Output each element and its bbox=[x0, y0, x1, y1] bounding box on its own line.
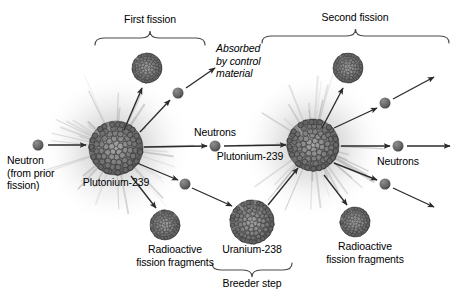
bracket-second-fission bbox=[262, 29, 449, 43]
neutron-absorbed bbox=[173, 88, 184, 99]
neutron-to-uranium bbox=[180, 179, 191, 190]
bracket-label-breeder-step: Breeder step bbox=[223, 277, 282, 290]
label-neutrons-right: Neutrons bbox=[377, 155, 419, 168]
neutron-incoming bbox=[33, 140, 44, 151]
neutron-escaping-middle bbox=[393, 141, 404, 152]
neutron-escaping-lower bbox=[380, 179, 391, 190]
fission-chain-diagram: First fission Second fission Breeder ste… bbox=[0, 0, 460, 303]
label-incoming-neutron: Neutron (from prior fission) bbox=[7, 154, 54, 192]
bracket-first-fission bbox=[95, 31, 205, 45]
bracket-label-first-fission: First fission bbox=[124, 13, 176, 26]
label-radioactive-fission-fragments-right: Radioactive fission fragments bbox=[326, 240, 404, 265]
arrow-neutron-lower-right-out bbox=[393, 188, 434, 207]
fission-fragment-lower-right bbox=[340, 207, 371, 237]
label-plutonium-239-right: Plutonium-239 bbox=[217, 150, 283, 163]
arrow-neutron-absorbed-out bbox=[186, 68, 215, 88]
bracket-label-second-fission: Second fission bbox=[322, 11, 389, 24]
uranium-238 bbox=[230, 200, 275, 244]
label-radioactive-fission-fragments-left: Radioactive fission fragments bbox=[136, 243, 214, 268]
fission-fragment-upper-left bbox=[132, 53, 162, 83]
plutonium-239-right bbox=[287, 119, 339, 171]
label-absorbed-by-control-material: Absorbed by control material bbox=[216, 42, 261, 80]
bracket-breeder-step bbox=[212, 263, 292, 277]
arrow-neutron-uranium-out bbox=[192, 188, 232, 206]
plutonium-239-left bbox=[89, 121, 143, 175]
label-neutrons-middle: Neutrons bbox=[194, 126, 236, 139]
label-plutonium-239-left: Plutonium-239 bbox=[83, 176, 149, 189]
fission-fragment-upper-right bbox=[333, 53, 363, 83]
arrow-neutron-upper-right-out bbox=[393, 77, 434, 99]
neutron-escaping-upper bbox=[380, 98, 391, 109]
fission-fragment-lower-left bbox=[150, 210, 180, 240]
label-uranium-238: Uranium-238 bbox=[222, 243, 282, 256]
